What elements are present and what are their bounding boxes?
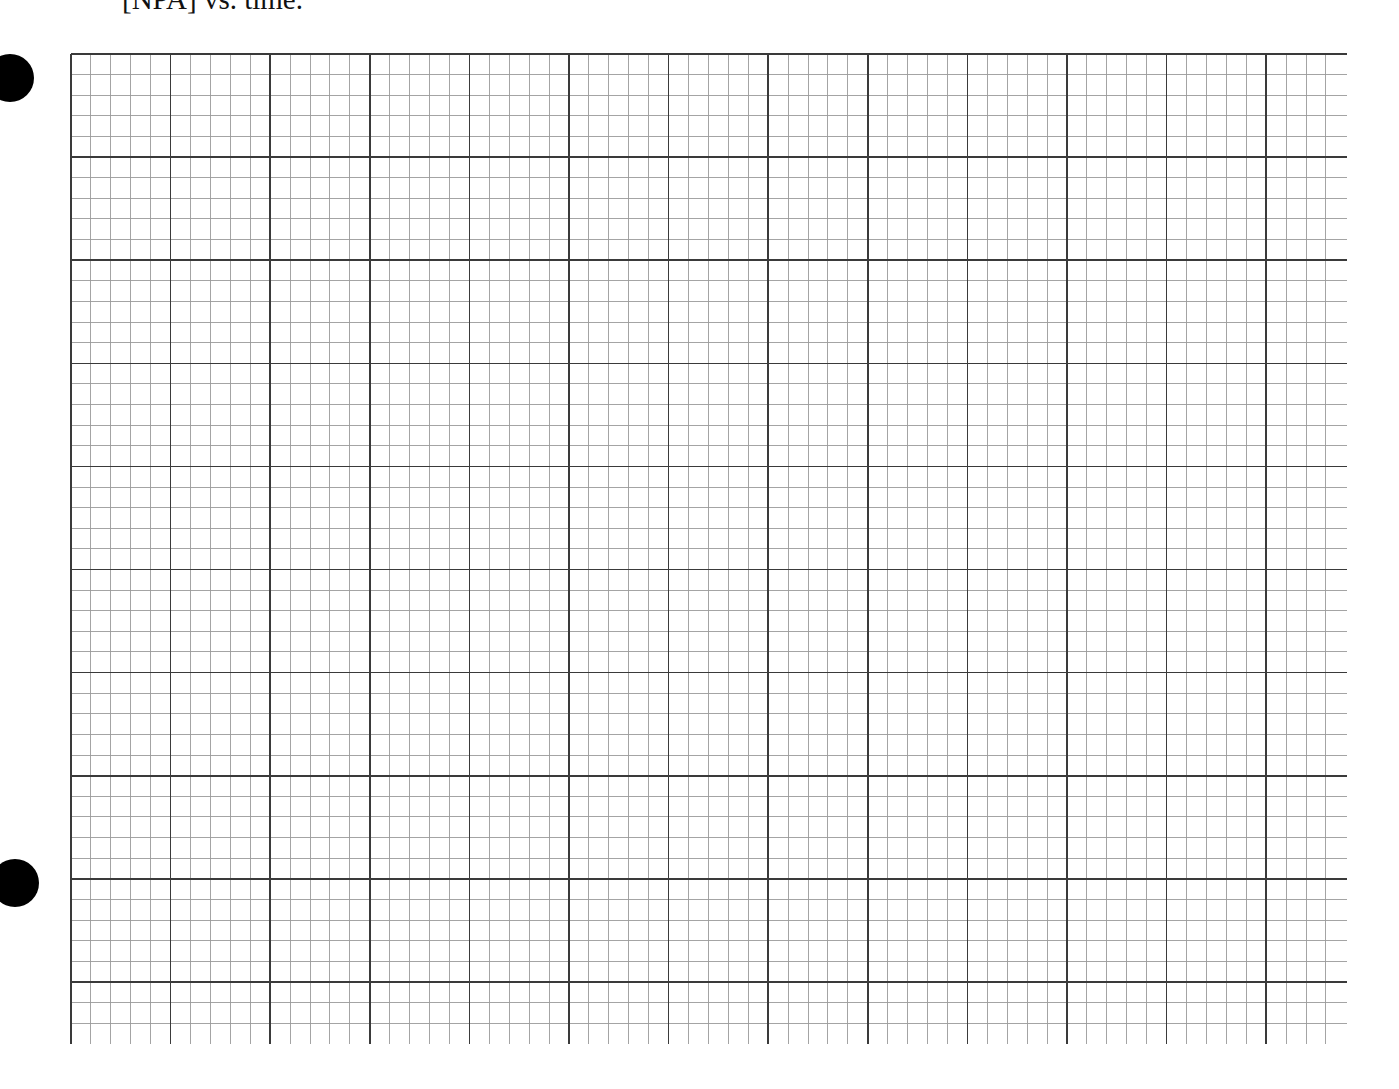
minor-grid-lines — [71, 54, 1347, 1044]
blank-graph-paper[interactable] — [0, 0, 1399, 1089]
